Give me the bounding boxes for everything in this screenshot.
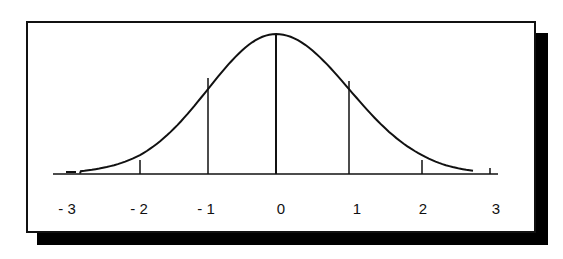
tick-label-neg3: - 3 xyxy=(58,200,76,217)
tick-label-3: 3 xyxy=(492,200,500,217)
tick-label-0: 0 xyxy=(277,200,285,217)
tick-label-1: 1 xyxy=(353,200,361,217)
tick-label-2: 2 xyxy=(419,200,427,217)
frame-shadow-bottom xyxy=(37,232,548,245)
curve-diagram xyxy=(0,0,563,259)
tick-label-neg2: - 2 xyxy=(130,200,148,217)
normal-curve-figure: - 3 - 2 - 1 0 1 2 3 xyxy=(0,0,563,259)
tick-label-neg1: - 1 xyxy=(197,200,215,217)
frame-shadow-right xyxy=(535,33,548,245)
